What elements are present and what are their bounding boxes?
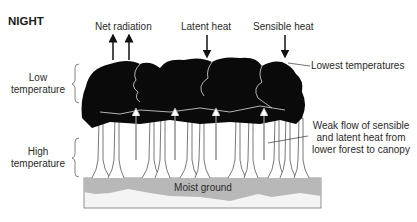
- forest-canopy: [82, 58, 306, 129]
- lowest-temperatures-leader: [288, 63, 310, 66]
- ground-label: Moist ground: [174, 182, 232, 193]
- high-zone-bracket: [72, 138, 79, 177]
- low-zone-bracket: [72, 64, 79, 103]
- forest-diagram: Moist ground: [0, 0, 417, 222]
- net-radiation-arrows: [113, 38, 129, 60]
